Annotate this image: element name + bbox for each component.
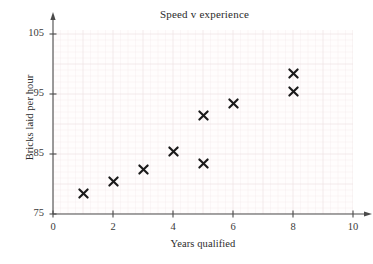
x-tick-label: 6: [218, 221, 248, 232]
x-tick-label: 2: [98, 221, 128, 232]
y-tick-label: 75: [34, 207, 45, 218]
x-tick-label: 4: [158, 221, 188, 232]
x-tick-label: 10: [338, 221, 368, 232]
x-tick-label: 8: [278, 221, 308, 232]
y-tick-label: 105: [28, 27, 44, 38]
y-tick-label: 85: [34, 147, 45, 158]
axis-lines: [39, 16, 373, 236]
plot-area: 758595105 0246810: [53, 30, 353, 214]
x-tick-label: 0: [38, 221, 68, 232]
y-axis-title: Bricks laid per hour: [24, 38, 35, 198]
scatter-chart-figure: Speed v experience Bricks laid per hour …: [0, 0, 373, 264]
y-tick-label: 95: [34, 87, 45, 98]
x-axis-title: Years qualified: [53, 238, 353, 249]
